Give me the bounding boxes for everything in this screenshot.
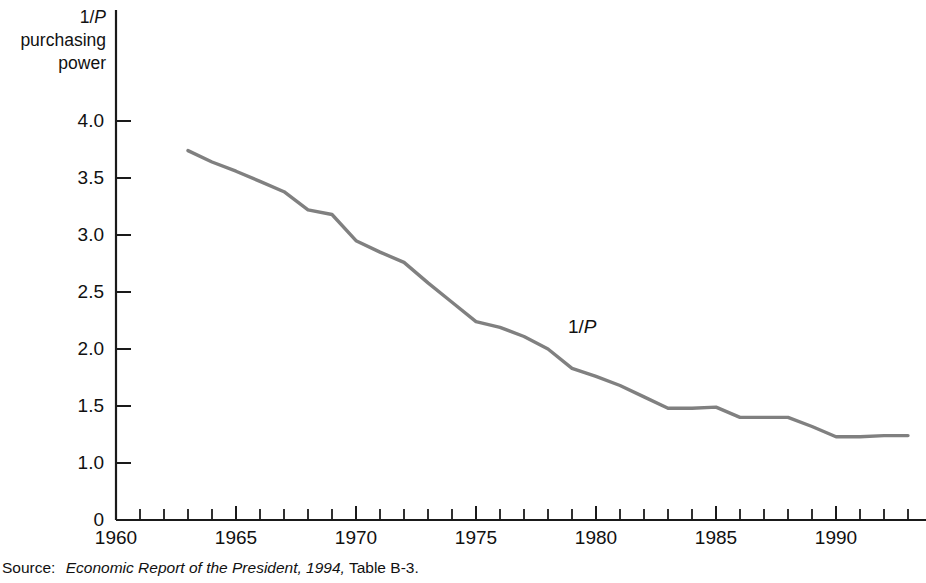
x-tick-label-1965: 1965 bbox=[196, 528, 276, 547]
x-tick-label-1975: 1975 bbox=[436, 528, 516, 547]
axis-lines bbox=[116, 10, 926, 520]
source-note: Source: Economic Report of the President… bbox=[2, 558, 419, 577]
y-axis-ticks bbox=[116, 121, 131, 463]
x-tick-label-1970: 1970 bbox=[316, 528, 396, 547]
figure-container: 1/P purchasing power 4.03.53.02.52.01.51… bbox=[0, 0, 926, 583]
x-tick-label-1960: 1960 bbox=[76, 528, 156, 547]
source-prefix: Source: bbox=[2, 559, 55, 576]
y-tick-label-1.5: 1.5 bbox=[42, 396, 104, 415]
x-tick-label-1985: 1985 bbox=[676, 528, 756, 547]
y-tick-label-1.0: 1.0 bbox=[42, 453, 104, 472]
y-tick-label-2.5: 2.5 bbox=[42, 282, 104, 301]
x-axis-major-ticks bbox=[116, 506, 836, 520]
source-suffix: Table B-3. bbox=[349, 559, 419, 576]
series-line-1-over-p bbox=[188, 151, 908, 437]
y-tick-label-2.0: 2.0 bbox=[42, 339, 104, 358]
chart-plot-area bbox=[0, 0, 926, 583]
source-title: Economic Report of the President, 1994, bbox=[66, 559, 345, 576]
x-tick-label-1980: 1980 bbox=[556, 528, 636, 547]
x-axis-minor-ticks bbox=[140, 509, 908, 520]
series-annotation-label: 1/P bbox=[568, 316, 597, 338]
y-tick-label-3.0: 3.0 bbox=[42, 225, 104, 244]
y-tick-label-4.0: 4.0 bbox=[42, 111, 104, 130]
x-tick-label-1990: 1990 bbox=[796, 528, 876, 547]
y-tick-label-3.5: 3.5 bbox=[42, 168, 104, 187]
